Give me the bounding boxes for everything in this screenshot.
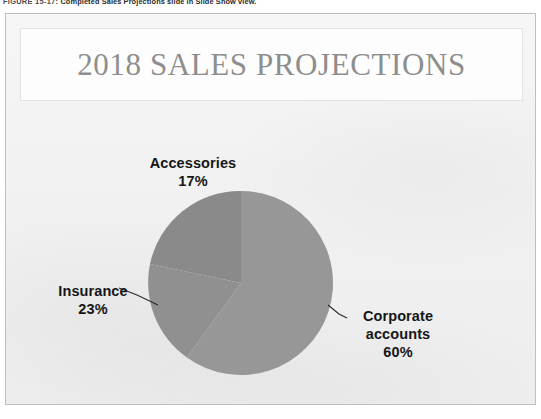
pie-chart-svg — [6, 14, 536, 405]
pie-label-accessories-name: Accessories — [150, 155, 237, 171]
pie-label-corporate-name-line1: Corporate — [363, 308, 433, 324]
pie-label-corporate-name-line2: accounts — [343, 325, 453, 343]
pie-chart: Accessories 17% Insurance 23% Corporate … — [6, 14, 536, 405]
pie-label-corporate-accounts: Corporate accounts 60% — [343, 307, 453, 361]
pie-label-insurance-name: Insurance — [58, 283, 127, 299]
figure-caption-text: Completed Sales Projections slide in Sli… — [60, 0, 256, 6]
pie-label-corporate-value: 60% — [343, 343, 453, 361]
presentation-slide: 2018 SALES PROJECTIONS Accessories 17% I… — [5, 13, 536, 405]
figure-caption-label: FIGURE 15-17: — [3, 0, 58, 6]
figure-caption: FIGURE 15-17: Completed Sales Projection… — [3, 0, 538, 6]
pie-label-insurance: Insurance 23% — [34, 282, 152, 318]
pie-label-accessories: Accessories 17% — [118, 154, 268, 190]
pie-label-accessories-value: 17% — [118, 172, 268, 190]
pie-label-insurance-value: 23% — [34, 300, 152, 318]
